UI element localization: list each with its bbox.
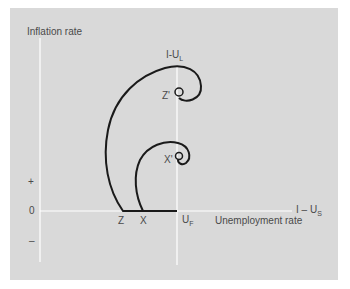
point-x-label: X xyxy=(140,216,147,226)
point-z-prime-label: Z' xyxy=(162,91,170,101)
point-z-label: Z xyxy=(118,216,124,226)
y-tick-zero: 0 xyxy=(29,206,35,216)
y-tick-plus: + xyxy=(28,177,34,187)
z-prime-marker xyxy=(175,88,183,96)
y-tick-minus: – xyxy=(29,236,35,246)
phillips-curve-diagram xyxy=(0,0,350,289)
vertical-line-label: I-UL xyxy=(166,50,183,60)
y-axis-label: Inflation rate xyxy=(27,27,82,37)
point-uf-label: UF xyxy=(182,215,194,225)
point-x-prime-label: X' xyxy=(164,155,173,165)
outer-curve-z xyxy=(106,66,201,211)
x-axis-label: Unemployment rate xyxy=(215,216,302,226)
horizontal-line-label: I – US xyxy=(296,205,322,215)
